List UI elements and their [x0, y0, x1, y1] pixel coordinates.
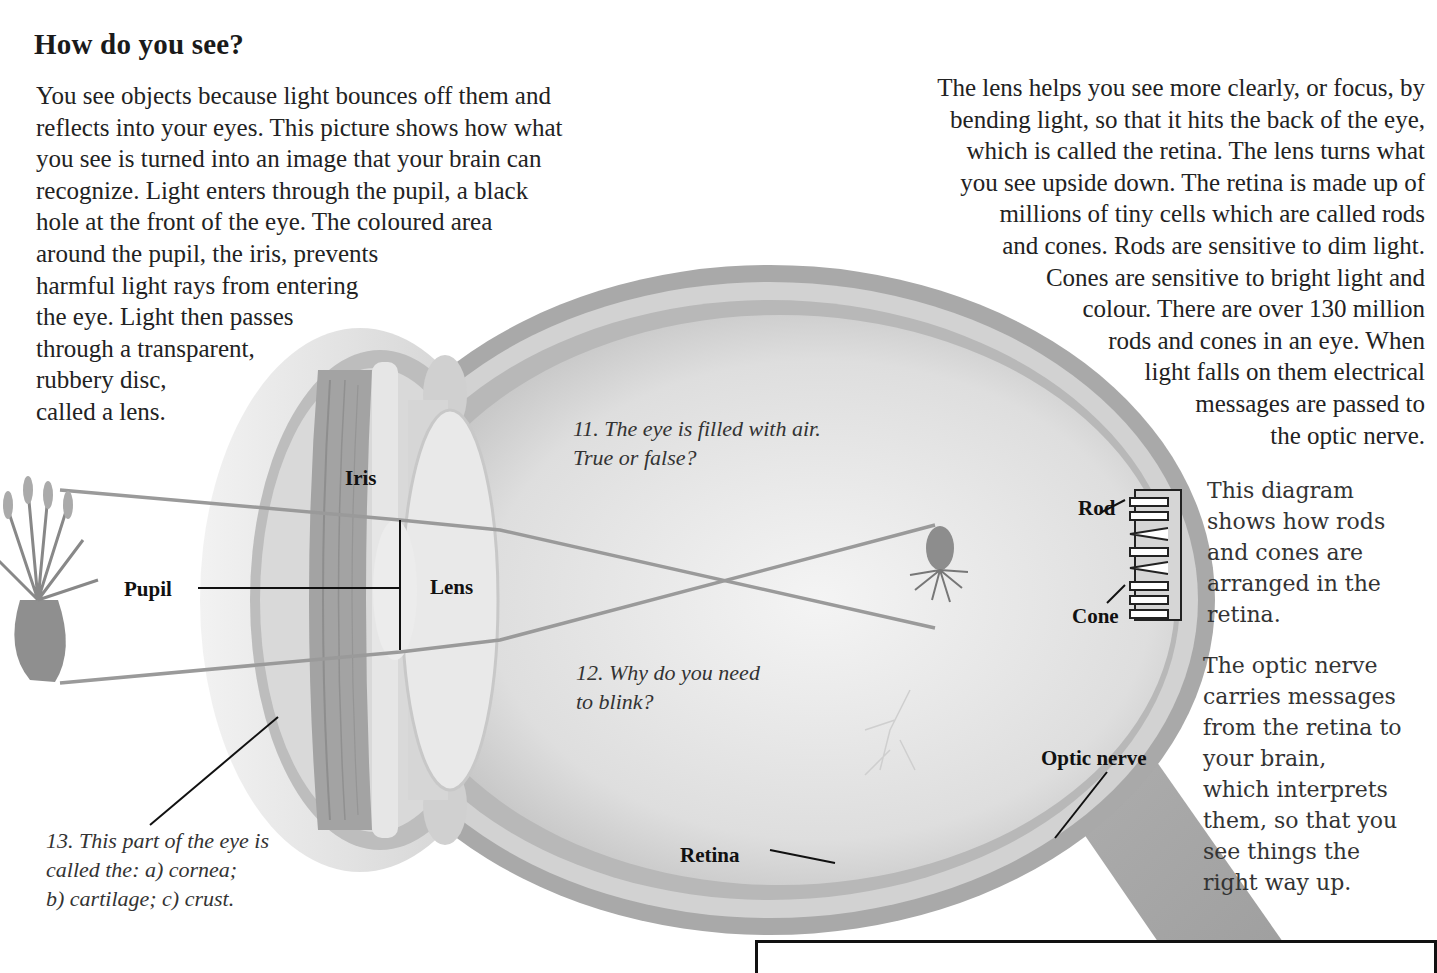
page-title: How do you see? [34, 28, 244, 61]
intro-left-paragraph: You see objects because light bounces of… [36, 80, 563, 428]
question-11: 11. The eye is filled with air. True or … [573, 414, 821, 472]
text-line: rods and cones in an eye. When [937, 325, 1425, 357]
text-line: the optic nerve. [937, 420, 1425, 452]
text-line: arranged in the [1207, 568, 1385, 599]
text-line: messages are passed to [937, 388, 1425, 420]
text-line: you see is turned into an image that you… [36, 143, 563, 175]
rods-cones-diagram [1130, 490, 1181, 620]
question-line: 12. Why do you need [576, 658, 760, 687]
rods-cones-caption: This diagram shows how rods and cones ar… [1207, 475, 1385, 630]
text-line: right way up. [1203, 867, 1402, 898]
question-line: True or false? [573, 443, 821, 472]
flower-vase-illustration [0, 476, 98, 682]
question-12: 12. Why do you need to blink? [576, 658, 760, 716]
text-line: The lens helps you see more clearly, or … [937, 72, 1425, 104]
text-line: you see upside down. The retina is made … [937, 167, 1425, 199]
text-line: harmful light rays from entering [36, 270, 563, 302]
question-line: 13. This part of the eye is [46, 826, 269, 855]
text-line: which is called the retina. The lens tur… [937, 135, 1425, 167]
label-optic-nerve: Optic nerve [1041, 746, 1147, 771]
text-line: and cones are [1207, 537, 1385, 568]
question-line: b) cartilage; c) crust. [46, 884, 269, 913]
bottom-info-box [755, 940, 1437, 973]
text-line: hole at the front of the eye. The colour… [36, 206, 563, 238]
question-line: to blink? [576, 687, 760, 716]
label-lens: Lens [430, 575, 473, 600]
question-13: 13. This part of the eye is called the: … [46, 826, 269, 913]
text-line: from the retina to [1203, 712, 1402, 743]
text-line: bending light, so that it hits the back … [937, 104, 1425, 136]
pupil-shape [373, 520, 417, 660]
label-rod: Rod [1078, 496, 1115, 521]
text-line: carries messages [1203, 681, 1402, 712]
question-line: called the: a) cornea; [46, 855, 269, 884]
text-line: see things the [1203, 836, 1402, 867]
text-line: around the pupil, the iris, prevents [36, 238, 563, 270]
text-line: millions of tiny cells which are called … [937, 198, 1425, 230]
text-line: which interprets [1203, 774, 1402, 805]
label-cone: Cone [1072, 604, 1119, 629]
text-line: your brain, [1203, 743, 1402, 774]
text-line: colour. There are over 130 million [937, 293, 1425, 325]
label-iris: Iris [345, 466, 377, 491]
question-line: 11. The eye is filled with air. [573, 414, 821, 443]
text-line: called a lens. [36, 396, 563, 428]
text-line: This diagram [1207, 475, 1385, 506]
text-line: The optic nerve [1203, 650, 1402, 681]
text-line: Cones are sensitive to bright light and [937, 262, 1425, 294]
optic-nerve-caption: The optic nerve carries messages from th… [1203, 650, 1402, 898]
label-retina: Retina [680, 843, 740, 868]
text-line: reflects into your eyes. This picture sh… [36, 112, 563, 144]
text-line: recognize. Light enters through the pupi… [36, 175, 563, 207]
text-line: through a transparent, [36, 333, 563, 365]
text-line: light falls on them electrical [937, 356, 1425, 388]
text-line: retina. [1207, 599, 1385, 630]
text-line: You see objects because light bounces of… [36, 80, 563, 112]
text-line: the eye. Light then passes [36, 301, 563, 333]
text-line: them, so that you [1203, 805, 1402, 836]
iris-shape [309, 370, 372, 830]
text-line: rubbery disc, [36, 364, 563, 396]
text-line: shows how rods [1207, 506, 1385, 537]
label-pupil: Pupil [124, 577, 172, 602]
text-line: and cones. Rods are sensitive to dim lig… [937, 230, 1425, 262]
intro-right-paragraph: The lens helps you see more clearly, or … [937, 72, 1425, 451]
